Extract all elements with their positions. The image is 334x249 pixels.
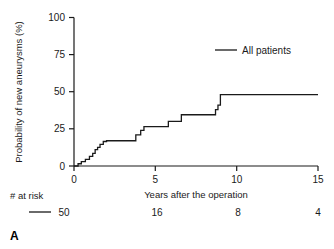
kaplan-meier-chart: 0 25 50 75 100 0 5 10 15 Years after the… — [0, 0, 334, 249]
y-tick-label-100: 100 — [48, 12, 65, 23]
y-tick-label-50: 50 — [54, 86, 66, 97]
panel-label: A — [10, 229, 19, 243]
x-tick-label-0: 0 — [71, 174, 77, 185]
y-tick-label-25: 25 — [54, 123, 66, 134]
risk-count-0: 50 — [58, 207, 70, 218]
x-axis-title: Years after the operation — [144, 189, 248, 200]
x-tick-label-15: 15 — [312, 174, 324, 185]
y-axis-title: Probability of new aneurysms (%) — [13, 21, 24, 163]
legend-label-all-patients: All patients — [242, 45, 291, 56]
x-tick-label-5: 5 — [153, 174, 159, 185]
risk-count-15: 4 — [315, 207, 321, 218]
y-tick-label-75: 75 — [54, 49, 66, 60]
risk-table-title: # at risk — [10, 190, 44, 201]
y-tick-label-0: 0 — [59, 161, 65, 172]
x-tick-label-10: 10 — [231, 174, 243, 185]
risk-count-10: 8 — [235, 207, 241, 218]
risk-count-5: 16 — [151, 207, 163, 218]
